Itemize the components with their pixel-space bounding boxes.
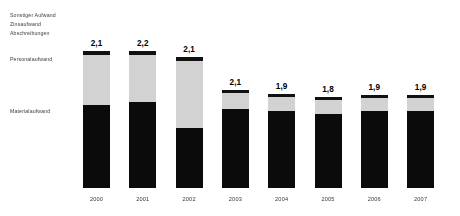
x-axis-label-2006: 2006 [368,196,381,202]
bar-value-label-2005: 1,8 [322,85,334,94]
bar-stack-2007[interactable] [407,95,434,188]
bar-stack-2006[interactable] [361,95,388,188]
bar-group-2005[interactable]: 1,82005 [315,97,342,188]
bar-group-2001[interactable]: 2,22001 [129,51,156,188]
segment-materialaufwand-2000 [83,105,110,188]
bar-value-label-2003: 2,1 [230,78,242,87]
bar-stack-2001[interactable] [129,51,156,188]
x-axis-label-2005: 2005 [321,196,334,202]
bar-group-2000[interactable]: 2,12000 [83,51,110,188]
segment-personalaufwand-2000 [83,55,110,105]
segment-materialaufwand-2006 [361,111,388,188]
bar-value-label-2004: 1,9 [276,82,288,91]
bar-group-2004[interactable]: 1,92004 [268,94,295,188]
segment-materialaufwand-2004 [268,111,295,188]
bar-value-label-2006: 1,9 [368,83,380,92]
bar-value-label-2002: 2,1 [183,45,195,54]
segment-personalaufwand-2002 [176,61,203,128]
segment-personalaufwand-2007 [407,98,434,111]
x-axis-label-2000: 2000 [90,196,103,202]
segment-personalaufwand-2006 [361,98,388,111]
segment-personalaufwand-2003 [222,93,249,109]
segment-materialaufwand-2005 [315,114,342,188]
segment-materialaufwand-2003 [222,109,249,188]
x-axis-label-2001: 2001 [136,196,149,202]
plot-area: 2,120002,220012,120022,120031,920041,820… [0,0,460,216]
bar-stack-2002[interactable] [176,57,203,188]
segment-materialaufwand-2002 [176,128,203,188]
segment-materialaufwand-2001 [129,102,156,188]
segment-materialaufwand-2007 [407,111,434,188]
segment-personalaufwand-2001 [129,55,156,102]
bar-stack-2003[interactable] [222,90,249,188]
bar-value-label-2007: 1,9 [415,83,427,92]
segment-personalaufwand-2004 [268,97,295,111]
x-axis-label-2004: 2004 [275,196,288,202]
bar-group-2002[interactable]: 2,12002 [176,57,203,188]
bar-stack-2005[interactable] [315,97,342,188]
segment-personalaufwand-2005 [315,100,342,114]
bar-group-2007[interactable]: 1,92007 [407,95,434,188]
bar-group-2003[interactable]: 2,12003 [222,90,249,188]
expense-structure-chart: Sonstiger Aufwand Zinsaufwand Abschreibu… [0,0,460,216]
bar-value-label-2000: 2,1 [91,39,103,48]
x-axis-label-2002: 2002 [182,196,195,202]
bar-stack-2004[interactable] [268,94,295,188]
x-axis-label-2007: 2007 [414,196,427,202]
x-axis-label-2003: 2003 [229,196,242,202]
bar-value-label-2001: 2,2 [137,39,149,48]
bar-group-2006[interactable]: 1,92006 [361,95,388,188]
bar-stack-2000[interactable] [83,51,110,188]
